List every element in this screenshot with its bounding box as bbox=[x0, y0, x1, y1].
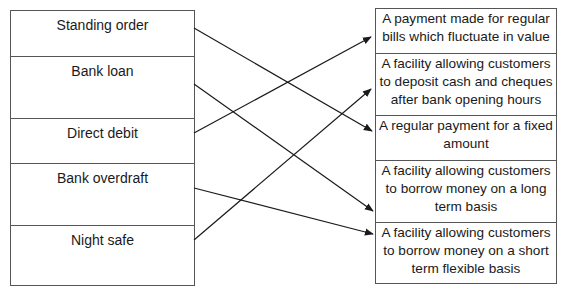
term-standing-order: Standing order bbox=[11, 11, 194, 57]
definition-label: A facility allowing customers to deposit… bbox=[379, 56, 552, 107]
definition-short-term-borrowing: A facility allowing customers to borrow … bbox=[376, 223, 556, 285]
terms-column: Standing order Bank loan Direct debit Ba… bbox=[10, 10, 195, 286]
term-label: Standing order bbox=[57, 17, 149, 33]
term-label: Direct debit bbox=[67, 125, 138, 141]
definition-long-term-borrowing: A facility allowing customers to borrow … bbox=[376, 161, 556, 223]
term-night-safe: Night safe bbox=[11, 226, 194, 287]
term-bank-overdraft: Bank overdraft bbox=[11, 164, 194, 226]
definition-fixed-payment: A regular payment for a fixed amount bbox=[376, 116, 556, 161]
term-label: Bank overdraft bbox=[57, 170, 148, 186]
definition-label: A regular payment for a fixed amount bbox=[379, 118, 553, 151]
definition-label: A facility allowing customers to borrow … bbox=[381, 225, 550, 276]
arrow-direct-debit-to-fluctuating bbox=[194, 37, 371, 133]
term-label: Night safe bbox=[71, 232, 134, 248]
term-bank-loan: Bank loan bbox=[11, 57, 194, 119]
definitions-column: A payment made for regular bills which f… bbox=[375, 8, 557, 284]
arrow-night-safe-to-deposit bbox=[194, 89, 371, 240]
definition-fluctuating-bills: A payment made for regular bills which f… bbox=[376, 9, 556, 54]
arrow-bank-loan-to-long-term bbox=[194, 84, 373, 211]
arrow-bank-overdraft-to-short-term bbox=[194, 188, 373, 234]
term-label: Bank loan bbox=[71, 63, 133, 79]
definition-label: A payment made for regular bills which f… bbox=[382, 11, 550, 44]
term-direct-debit: Direct debit bbox=[11, 119, 194, 164]
arrow-standing-order-to-fixed bbox=[194, 28, 372, 131]
definition-night-deposit: A facility allowing customers to deposit… bbox=[376, 54, 556, 116]
definition-label: A facility allowing customers to borrow … bbox=[381, 163, 550, 214]
